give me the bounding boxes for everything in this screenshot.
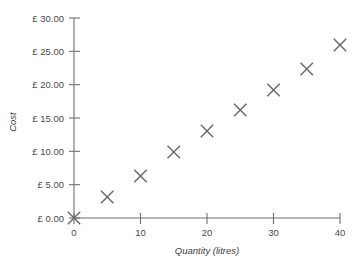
data-point-x-marker xyxy=(301,63,313,75)
data-point-x-marker xyxy=(201,125,213,137)
data-point-x-marker xyxy=(234,104,246,116)
data-point-x-marker xyxy=(134,170,146,182)
x-tick-label-40: 40 xyxy=(335,227,346,238)
y-tick-label-0: £ 0.00 xyxy=(38,213,64,224)
scatter-chart: £ 0.00 £ 5.00 £ 10.00 £ 15.00 £ 20.00 £ … xyxy=(0,0,356,268)
y-axis: £ 0.00 £ 5.00 £ 10.00 £ 15.00 £ 20.00 £ … xyxy=(7,13,80,224)
chart-canvas: £ 0.00 £ 5.00 £ 10.00 £ 15.00 £ 20.00 £ … xyxy=(0,0,356,268)
y-tick-label-15: £ 15.00 xyxy=(32,113,64,124)
x-axis: 0 10 20 30 40 Quantity (litres) xyxy=(71,213,345,256)
x-axis-title: Quantity (litres) xyxy=(175,245,239,256)
x-tick-label-10: 10 xyxy=(135,227,146,238)
x-axis-tick-labels: 0 10 20 30 40 xyxy=(71,227,345,238)
y-axis-tick-labels: £ 0.00 £ 5.00 £ 10.00 £ 15.00 £ 20.00 £ … xyxy=(32,13,64,224)
y-tick-label-10: £ 10.00 xyxy=(32,146,64,157)
x-tick-label-30: 30 xyxy=(268,227,279,238)
data-point-x-marker xyxy=(334,39,346,51)
y-tick-label-30: £ 30.00 xyxy=(32,13,64,24)
x-tick-label-0: 0 xyxy=(71,227,76,238)
data-point-x-marker xyxy=(101,191,113,203)
data-point-x-marker xyxy=(168,146,180,158)
y-axis-title: Cost xyxy=(7,112,18,132)
y-tick-label-25: £ 25.00 xyxy=(32,46,64,57)
x-tick-label-20: 20 xyxy=(202,227,213,238)
y-tick-label-5: £ 5.00 xyxy=(38,179,64,190)
y-tick-label-20: £ 20.00 xyxy=(32,79,64,90)
data-point-group xyxy=(68,39,346,224)
data-point-x-marker xyxy=(267,84,279,96)
